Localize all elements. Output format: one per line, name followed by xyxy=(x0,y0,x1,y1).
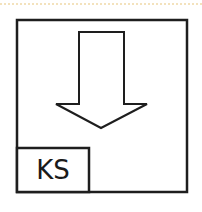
symbol-label: KS xyxy=(17,149,89,191)
